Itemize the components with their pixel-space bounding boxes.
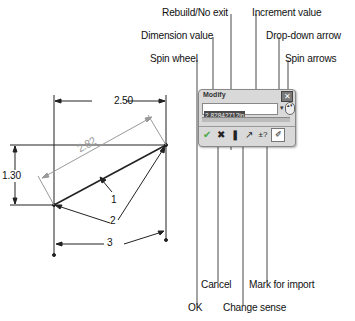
ok-button[interactable]: ✔ [201, 129, 213, 141]
modify-dialog: Modify ✕ 2.82842712in ▾ ▴▾ ✔ ✖ ❚ ↗ ±? ✐ [198, 89, 296, 147]
callout-mark-for-import: Mark for import [249, 278, 314, 290]
diagram-canvas [0, 0, 355, 321]
aligned-dimension [38, 115, 166, 205]
callout-1: 1 [111, 193, 116, 205]
callout-spin-wheel: Spin wheel [150, 52, 198, 64]
callout-spin-arrows: Spin arrows [285, 52, 337, 64]
rebuild-button[interactable]: ❚ [229, 129, 241, 141]
spin-arrows-icon[interactable]: ▴▾ [285, 102, 295, 115]
spin-wheel[interactable] [202, 117, 290, 122]
callout-dropdown-arrow: Drop-down arrow [266, 29, 341, 41]
callout-change-sense: Change sense [223, 301, 286, 313]
callout-2: 2 [110, 214, 115, 226]
callout-ok: OK [188, 301, 202, 313]
dimension-horizontal-label: 2.50 [114, 94, 133, 106]
callout-3: 3 [107, 236, 112, 248]
callout-rebuild: Rebuild/No exit [162, 6, 228, 18]
dialog-title: Modify [203, 91, 226, 98]
divider [199, 126, 295, 127]
change-sense-button[interactable]: ↗ [243, 129, 255, 141]
dropdown-arrow-icon[interactable]: ▾ [278, 103, 285, 113]
sketch-drawing [10, 95, 168, 257]
close-icon[interactable]: ✕ [281, 91, 293, 102]
dimension-vertical-label: 1.30 [2, 169, 21, 181]
callout-cancel: Cancel [201, 278, 231, 290]
callout-dimension-value: Dimension value [141, 29, 213, 41]
mark-for-import-button[interactable]: ✐ [271, 128, 285, 142]
increment-value-button[interactable]: ±? [257, 129, 269, 141]
dimension-value-input[interactable]: 2.82842712in [202, 103, 278, 115]
callout-increment-value: Increment value [252, 6, 321, 18]
cancel-button[interactable]: ✖ [215, 129, 227, 141]
dialog-toolbar: ✔ ✖ ❚ ↗ ±? ✐ [201, 128, 285, 142]
